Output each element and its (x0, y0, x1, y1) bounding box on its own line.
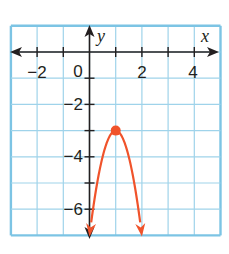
x-axis (10, 47, 219, 57)
y-tick-label-neg2: −2 (64, 95, 83, 114)
x-tick-label-4: 4 (188, 63, 197, 82)
y-axis-label: y (95, 26, 105, 46)
coordinate-plane: x y −2 0 2 4 −2 −4 −6 (0, 0, 229, 254)
y-tick-label-neg4: −4 (64, 147, 83, 166)
x-axis-label: x (200, 26, 209, 46)
x-tick-label-neg2: −2 (27, 63, 46, 82)
origin-label: 0 (73, 62, 82, 81)
x-tick-label-2: 2 (137, 63, 146, 82)
vertex-point (111, 126, 121, 136)
y-tick-label-neg6: −6 (64, 200, 83, 219)
